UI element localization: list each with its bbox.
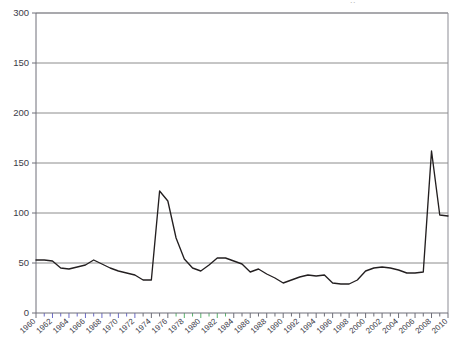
clipped-title-text: .. bbox=[350, 0, 356, 5]
data-series-line bbox=[36, 151, 448, 284]
x-axis-tick-label: 1962 bbox=[35, 316, 55, 335]
x-axis-tick-label: 1978 bbox=[166, 316, 186, 335]
x-axis-tick-label: 1996 bbox=[315, 316, 335, 335]
x-axis-tick-label: 1984 bbox=[216, 316, 236, 335]
x-axis-tick-label: 1986 bbox=[232, 316, 252, 335]
y-axis-labels-group: 050100150200150300 bbox=[13, 7, 29, 318]
x-axis-tick-label: 2002 bbox=[364, 316, 384, 335]
gridlines-group bbox=[36, 13, 448, 263]
x-axis-tick-label: 1994 bbox=[298, 316, 318, 335]
x-axis-tick-label: 1992 bbox=[282, 316, 302, 335]
x-axis-tick-label: 1972 bbox=[117, 316, 137, 335]
x-axis-tick-label: 1970 bbox=[100, 316, 120, 335]
x-axis-tick-label: 2008 bbox=[414, 316, 434, 335]
y-axis-tick-label: 200 bbox=[13, 107, 29, 118]
x-axis-tick-label: 2000 bbox=[348, 316, 368, 335]
x-axis-tick-label: 1980 bbox=[183, 316, 203, 335]
y-axis-ticks-group bbox=[32, 13, 36, 313]
x-axis-tick-label: 1966 bbox=[68, 316, 88, 335]
x-axis-tick-label: 1974 bbox=[133, 316, 153, 335]
x-axis-tick-label: 1976 bbox=[150, 316, 170, 335]
y-axis-tick-label: 50 bbox=[18, 257, 29, 268]
line-chart-canvas: 050100150200150300 196019621964196619681… bbox=[0, 0, 458, 350]
y-axis-tick-label: 300 bbox=[13, 7, 29, 18]
y-axis-tick-label: 150 bbox=[13, 57, 29, 68]
x-axis-tick-label: 1982 bbox=[199, 316, 219, 335]
x-axis-labels-group: 1960196219641966196819701972197419761978… bbox=[18, 316, 450, 335]
x-axis-tick-label: 1968 bbox=[84, 316, 104, 335]
x-axis-tick-label: 2006 bbox=[397, 316, 417, 335]
y-axis-tick-label: 150 bbox=[13, 157, 29, 168]
x-axis-tick-label: 1988 bbox=[249, 316, 269, 335]
x-axis-tick-label: 2004 bbox=[381, 316, 401, 335]
x-axis-tick-label: 1990 bbox=[265, 316, 285, 335]
x-axis-tick-label: 1998 bbox=[331, 316, 351, 335]
chart-figure: .. 050100150200150300 196019621964196619… bbox=[0, 0, 458, 350]
x-axis-tick-label: 1964 bbox=[51, 316, 71, 335]
x-axis-tick-label: 2010 bbox=[430, 316, 450, 335]
y-axis-tick-label: 100 bbox=[13, 207, 29, 218]
x-axis-ticks-group bbox=[36, 313, 448, 318]
x-axis-tick-label: 1960 bbox=[18, 316, 38, 335]
y-axis-tick-label: 0 bbox=[24, 307, 29, 318]
